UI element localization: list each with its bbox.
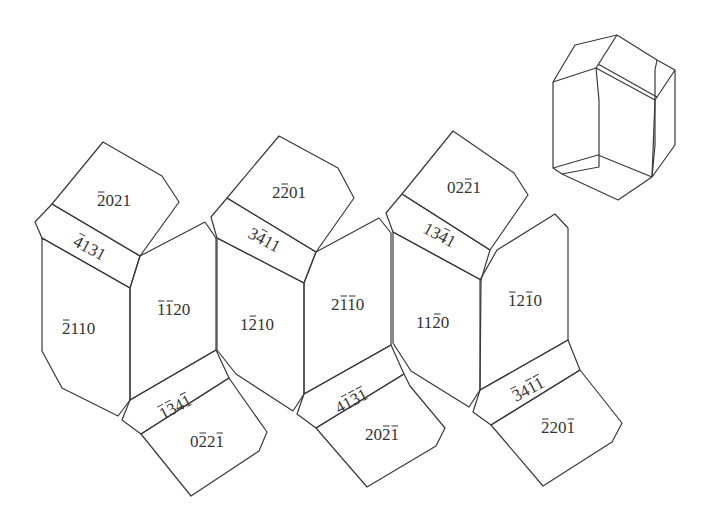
miller-index-text: 2201 (541, 418, 575, 437)
miller-index-label: 1341 (156, 391, 195, 424)
crystal-face-top-pent-1: 2021 (52, 142, 179, 256)
miller-index-text: 0221 (447, 178, 481, 197)
crystal-face-prism-1: 2110 (42, 238, 130, 416)
miller-index-label: 1210 (240, 315, 274, 334)
miller-index-text: 2110 (331, 295, 364, 314)
crystal-edge (596, 35, 617, 68)
face-outline (297, 345, 404, 428)
crystal-3d-view (553, 35, 675, 200)
miller-index-label: 1120 (157, 300, 190, 319)
miller-index-text: 2021 (97, 191, 131, 210)
crystal-face-prism-3: 1210 (217, 238, 304, 411)
crystal-face-band-top-1: 4131 (35, 204, 140, 288)
miller-index-label: 2201 (272, 183, 306, 202)
miller-index-text: 1210 (508, 291, 542, 310)
miller-index-label: 1210 (508, 291, 542, 310)
miller-index-text: 1341 (156, 391, 195, 424)
crystal-face-band-bot-1: 1341 (122, 350, 229, 434)
miller-index-text: 2201 (272, 183, 306, 202)
crystal-edge (553, 155, 652, 177)
crystal-face-prism-2: 1120 (130, 222, 216, 400)
miller-index-text: 1210 (240, 315, 274, 334)
miller-index-label: 2021 (97, 191, 131, 210)
crystal-face-band-bot-3: 3411 (473, 340, 580, 425)
miller-index-label: 4131 (332, 385, 371, 418)
crystal-edge (553, 82, 652, 200)
miller-index-label: 0221 (447, 178, 481, 197)
crystal-face-prism-4: 2110 (304, 218, 391, 394)
miller-index-text: 1120 (157, 300, 190, 319)
miller-index-label: 4131 (70, 232, 109, 265)
diagram-canvas: 2021413121101120134102212201341112102110… (0, 0, 710, 515)
miller-index-text: 1341 (420, 219, 459, 252)
crystal-face-top-pent-2: 2201 (227, 136, 354, 252)
miller-index-label: 3411 (509, 373, 547, 405)
miller-index-text: 0221 (190, 432, 224, 451)
miller-index-text: 2021 (365, 425, 399, 444)
face-outline (122, 350, 229, 434)
miller-index-label: 2021 (365, 425, 399, 444)
crystal-face-bot-pent-1: 0221 (141, 378, 267, 496)
miller-index-label: 2110 (331, 295, 364, 314)
miller-index-text: 2110 (62, 319, 95, 338)
crystal-edge (553, 68, 599, 174)
crystal-edge (553, 35, 657, 177)
crystal-net-diagram: 2021413121101120134102212201341112102110… (0, 0, 710, 515)
crystal-edge (657, 60, 675, 70)
miller-index-text: 3411 (509, 373, 547, 405)
miller-index-text: 4131 (70, 232, 109, 265)
miller-index-label: 0221 (190, 432, 224, 451)
crystal-face-bot-pent-2: 2021 (316, 374, 445, 487)
crystal-edge (596, 68, 655, 177)
miller-index-text: 1120 (416, 313, 449, 332)
miller-index-label: 2201 (541, 418, 575, 437)
miller-index-label: 1341 (420, 219, 459, 252)
crystal-face-prism-6: 1210 (480, 214, 568, 390)
crystal-face-band-bot-2: 4131 (297, 345, 404, 428)
crystal-face-prism-5: 1120 (393, 232, 481, 407)
miller-index-text: 4131 (332, 385, 371, 418)
crystal-face-band-top-2: 3411 (211, 198, 316, 283)
miller-index-label: 1120 (416, 313, 449, 332)
miller-index-label: 2110 (62, 319, 95, 338)
crystal-edge (598, 64, 657, 97)
